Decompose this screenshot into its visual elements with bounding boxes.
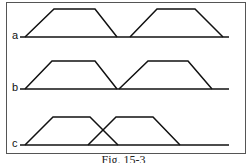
trapezoid-1 bbox=[25, 117, 118, 145]
row-label-c: c bbox=[12, 138, 18, 149]
trapezoid-1 bbox=[25, 61, 117, 89]
diagram-row-b bbox=[20, 61, 229, 89]
trapezoid-2 bbox=[130, 9, 223, 37]
row-label-b: b bbox=[12, 82, 18, 93]
trapezoid-2 bbox=[119, 61, 212, 89]
row-label-a: a bbox=[12, 30, 18, 41]
trapezoid-diagram bbox=[0, 0, 247, 163]
diagram-row-c bbox=[20, 117, 229, 145]
diagram-row-a bbox=[20, 9, 229, 37]
trapezoid-2 bbox=[88, 117, 180, 145]
trapezoid-1 bbox=[25, 9, 117, 37]
figure-caption: Fig. 15-3 bbox=[0, 154, 247, 163]
